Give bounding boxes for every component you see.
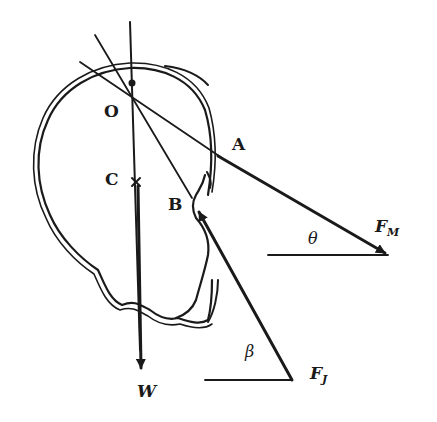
- label-FM-main: F: [375, 216, 387, 236]
- diagram-drawing: [0, 0, 437, 422]
- point-O-marker: [129, 80, 136, 87]
- label-FM-subscript: M: [387, 226, 399, 239]
- label-C: C: [105, 171, 119, 188]
- label-B: B: [168, 196, 182, 213]
- label-FJ-subscript: J: [322, 373, 327, 386]
- force-W-arrow: [138, 186, 141, 368]
- label-A: A: [232, 136, 245, 153]
- head-free-body-diagram: O C A B W FM FJ θ β: [0, 0, 437, 422]
- label-FJ-main: F: [310, 363, 322, 383]
- label-FM: FM: [375, 218, 399, 235]
- label-O: O: [104, 103, 119, 120]
- line-O-to-A: [80, 62, 222, 158]
- label-beta: β: [245, 344, 254, 360]
- label-theta: θ: [308, 231, 318, 247]
- label-W: W: [137, 383, 156, 400]
- force-FM-arrow: [218, 156, 385, 253]
- label-FJ: FJ: [310, 365, 327, 382]
